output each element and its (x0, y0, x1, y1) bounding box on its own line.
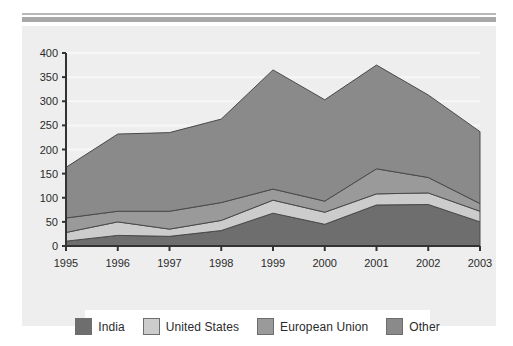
y-tick-label: 150 (40, 168, 58, 180)
x-tick-label: 2000 (313, 257, 337, 269)
legend-label: Other (409, 320, 440, 334)
y-tick-label: 200 (40, 144, 58, 156)
chart-page: 050100150200250300350400 199519961997199… (0, 0, 513, 346)
legend-label: United States (166, 320, 239, 334)
y-tick-label: 400 (40, 47, 58, 59)
y-tick-label: 50 (46, 216, 58, 228)
area-series-group (66, 65, 480, 246)
y-tick-label: 350 (40, 71, 58, 83)
x-tick-label: 2001 (364, 257, 388, 269)
chart-panel: 050100150200250300350400 199519961997199… (22, 26, 496, 326)
x-tick-label: 1997 (157, 257, 181, 269)
x-tick-label: 1995 (54, 257, 78, 269)
rule-thick (22, 17, 496, 22)
legend-label: European Union (280, 320, 368, 334)
legend-swatch-icon (143, 318, 160, 335)
legend-label: India (98, 320, 125, 334)
legend-swatch-icon (257, 318, 274, 335)
x-tick-label: 1996 (106, 257, 130, 269)
x-axis (66, 246, 480, 251)
y-axis-tick-labels: 050100150200250300350400 (40, 47, 58, 252)
y-tick-label: 250 (40, 119, 58, 131)
x-tick-label: 1999 (261, 257, 285, 269)
y-tick-label: 300 (40, 95, 58, 107)
y-tick-label: 0 (52, 240, 58, 252)
chart-legend: IndiaUnited StatesEuropean UnionOther (85, 310, 430, 343)
legend-item-united-states[interactable]: United States (143, 318, 239, 335)
legend-swatch-icon (75, 318, 92, 335)
x-tick-label: 1998 (209, 257, 233, 269)
rule-thin (22, 13, 496, 15)
y-axis (62, 53, 66, 246)
plot-area: 050100150200250300350400 199519961997199… (22, 26, 496, 278)
stacked-area-chart: 050100150200250300350400 199519961997199… (22, 26, 496, 278)
top-decorative-rule (22, 13, 496, 22)
legend-item-other[interactable]: Other (386, 318, 440, 335)
legend-swatch-icon (386, 318, 403, 335)
x-tick-label: 2002 (416, 257, 440, 269)
y-tick-label: 100 (40, 192, 58, 204)
legend-item-european-union[interactable]: European Union (257, 318, 368, 335)
x-axis-tick-labels: 199519961997199819992000200120022003 (54, 257, 492, 269)
legend-item-india[interactable]: India (75, 318, 125, 335)
x-tick-label: 2003 (468, 257, 492, 269)
